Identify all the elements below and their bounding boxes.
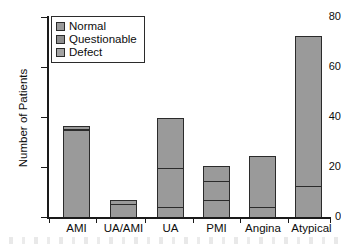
bar-UA: [157, 118, 184, 217]
x-label-Atypical: Atypical: [285, 222, 338, 235]
bar-segment-defect: [203, 200, 230, 218]
legend-swatch-normal-icon: [56, 22, 65, 31]
x-tick-1: [96, 217, 97, 223]
bar-UA-AMI: [110, 200, 137, 218]
bar-PMI: [203, 166, 230, 217]
bar-segment-questionable: [157, 168, 184, 207]
y-tick-label-80: 80: [307, 11, 341, 22]
y-tick-20: [41, 167, 47, 168]
y-tick-0: [41, 217, 47, 218]
x-tick-0: [49, 217, 50, 223]
bar-segment-defect: [157, 207, 184, 217]
bar-Angina: [249, 156, 276, 217]
y-axis-title: Number of Patients: [17, 33, 29, 203]
legend-item-defect: Defect: [56, 46, 137, 59]
scan-artifact: [0, 237, 341, 244]
bar-segment-questionable: [110, 200, 137, 205]
bar-segment-questionable: [295, 36, 322, 186]
x-tick-2: [145, 217, 146, 223]
bar-segment-questionable: [63, 129, 90, 131]
x-label-PMI: PMI: [193, 222, 240, 235]
legend-swatch-questionable-icon: [56, 35, 65, 44]
bar-segment-defect: [63, 130, 90, 217]
stacked-bar-chart: Number of Patients 80 60 40 20 0 AMI UA/…: [0, 0, 341, 244]
legend-swatch-defect-icon: [56, 48, 65, 57]
x-label-UA-AMI: UA/AMI: [98, 222, 149, 235]
bar-Atypical: [295, 36, 322, 217]
legend-item-questionable: Questionable: [56, 33, 137, 46]
bar-segment-normal: [203, 166, 230, 181]
bar-segment-defect: [295, 186, 322, 217]
x-label-AMI: AMI: [53, 222, 100, 235]
x-label-UA: UA: [147, 222, 194, 235]
legend-label-defect: Defect: [69, 46, 102, 59]
legend-label-questionable: Questionable: [69, 33, 137, 46]
legend: Normal Questionable Defect: [51, 16, 145, 63]
legend-label-normal: Normal: [69, 20, 106, 33]
bar-segment-defect: [249, 207, 276, 218]
bar-AMI: [63, 126, 90, 217]
bar-segment-defect: [110, 204, 137, 217]
y-axis-line: [47, 16, 49, 219]
y-tick-60: [41, 67, 47, 68]
x-label-Angina: Angina: [238, 222, 288, 235]
y-tick-40: [41, 117, 47, 118]
bar-segment-normal: [63, 126, 90, 129]
bar-segment-questionable: [203, 181, 230, 200]
x-tick-6: [330, 217, 331, 223]
legend-item-normal: Normal: [56, 20, 137, 33]
y-tick-80: [41, 17, 47, 18]
bar-segment-questionable: [249, 156, 276, 207]
bar-segment-normal: [157, 118, 184, 168]
